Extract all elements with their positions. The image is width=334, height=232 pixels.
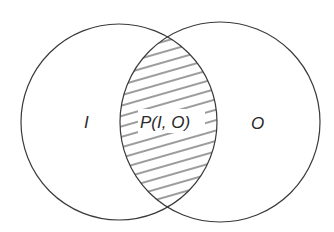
- set-i-label: I: [84, 113, 89, 132]
- set-o-label: O: [251, 114, 264, 133]
- intersection-label: P(I, O): [140, 113, 190, 132]
- venn-diagram: I P(I, O) O: [0, 0, 334, 232]
